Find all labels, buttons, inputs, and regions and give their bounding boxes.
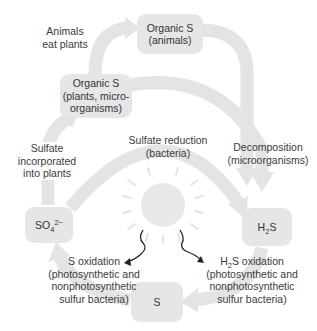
- node-organic-s-plants-line2: (plants, micro-: [63, 90, 130, 103]
- decomposition-line2: (microorganisms): [220, 154, 316, 167]
- h2s-oxidation-line3: nonphotosynthetic: [197, 280, 307, 293]
- sulfate-incorporated-line3: into plants: [14, 167, 80, 180]
- node-sulfate: SO42−: [25, 207, 73, 243]
- s-oxidation-line2: (photosynthetic and: [44, 268, 144, 281]
- animals-eat-plants-line1: Animals: [38, 25, 92, 38]
- node-organic-s-plants-line3: organisms): [63, 102, 130, 115]
- node-organic-s-animals: Organic S (animals): [137, 14, 203, 54]
- sulfate-incorporated-line1: Sulfate: [14, 142, 80, 155]
- label-h2s-oxidation: H2S oxidation (photosynthetic and nonpho…: [197, 255, 307, 305]
- h2s-post: S: [269, 221, 276, 233]
- sulfate-sup: 2−: [54, 217, 63, 226]
- node-organic-s-plants-line1: Organic S: [63, 77, 130, 90]
- s-oxidation-line3: nonphotosynthetic: [44, 280, 144, 293]
- node-organic-s-animals-line1: Organic S: [147, 22, 194, 35]
- s-oxidation-line4: sulfur bacteria): [44, 293, 144, 306]
- label-animals-eat-plants: Animals eat plants: [38, 25, 92, 50]
- h2s-oxidation-pre: H: [220, 255, 228, 267]
- sulfate-reduction-line2: (bacteria): [118, 147, 218, 160]
- node-h2s: H2S: [242, 208, 292, 246]
- s-oxidation-line1: S oxidation: [44, 255, 144, 268]
- node-organic-s-animals-line2: (animals): [147, 34, 194, 47]
- sulfur-cycle-diagram: Organic S (animals) Organic S (plants, m…: [0, 0, 317, 331]
- node-organic-s-plants: Organic S (plants, micro- organisms): [60, 74, 132, 118]
- label-sulfate-incorporated: Sulfate incorporated into plants: [14, 142, 80, 180]
- decomposition-line1: Decomposition: [220, 141, 316, 154]
- sulfate-reduction-line1: Sulfate reduction: [118, 134, 218, 147]
- animals-eat-plants-line2: eat plants: [38, 38, 92, 51]
- sulfate-incorporated-line2: incorporated: [14, 155, 80, 168]
- label-decomposition: Decomposition (microorganisms): [220, 141, 316, 166]
- label-sulfate-reduction: Sulfate reduction (bacteria): [118, 134, 218, 159]
- h2s-oxidation-post: S oxidation: [232, 255, 284, 267]
- h2s-oxidation-line2: (photosynthetic and: [197, 268, 307, 281]
- label-s-oxidation: S oxidation (photosynthetic and nonphoto…: [44, 255, 144, 305]
- node-s-label: S: [153, 296, 160, 309]
- h2s-oxidation-line4: sulfur bacteria): [197, 293, 307, 306]
- sulfate-base: SO: [35, 219, 50, 231]
